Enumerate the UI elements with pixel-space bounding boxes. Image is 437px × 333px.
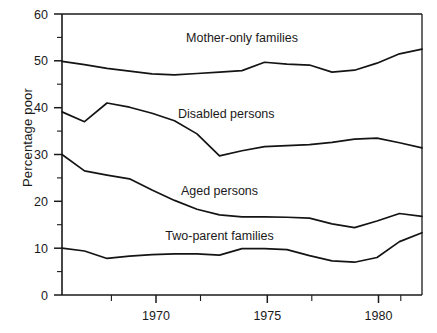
y-tick-label-20: 20 [34, 195, 48, 209]
y-axis-ticks: 60 50 40 30 20 10 0 [34, 8, 62, 303]
y-tick-label-40: 40 [34, 101, 48, 115]
chart-plot-area: 60 50 40 30 20 10 0 1970 1975 1980 [0, 0, 437, 333]
plot-frame [62, 14, 422, 295]
y-tick-label-10: 10 [34, 242, 48, 256]
y-tick-label-50: 50 [34, 54, 48, 68]
x-tick-label-1970: 1970 [142, 309, 170, 323]
series-label-aged-persons: Aged persons [181, 184, 258, 198]
x-tick-label-1975: 1975 [253, 309, 281, 323]
y-tick-label-0: 0 [41, 289, 48, 303]
poverty-line-chart: Percentage poor 60 50 40 [0, 0, 437, 333]
series-line-mother-only-families [62, 49, 422, 75]
series-label-disabled-persons: Disabled persons [178, 107, 275, 121]
series-label-mother-only-families: Mother-only families [186, 31, 298, 45]
series-label-two-parent-families: Two-parent families [165, 229, 273, 243]
x-tick-label-1980: 1980 [365, 309, 393, 323]
x-axis-ticks: 1970 1975 1980 [111, 295, 400, 323]
y-tick-label-30: 30 [34, 148, 48, 162]
y-tick-label-60: 60 [34, 8, 48, 22]
